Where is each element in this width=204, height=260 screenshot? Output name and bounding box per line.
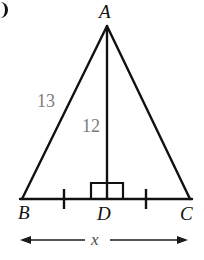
arrowhead-left-icon — [20, 236, 31, 244]
altitude-length-label-12: 12 — [82, 117, 100, 135]
base-variable-label-x: x — [91, 231, 99, 248]
segment-AB — [22, 26, 107, 199]
segment-AC — [107, 26, 190, 199]
vertex-label-D: D — [97, 204, 111, 223]
vertex-label-A: A — [99, 2, 111, 21]
geometry-figure: A B C D 13 12 x — [0, 0, 204, 260]
vertex-label-C: C — [180, 204, 193, 223]
arrowhead-right-icon — [177, 236, 188, 244]
side-length-label-13: 13 — [37, 92, 55, 110]
vertex-label-B: B — [18, 203, 30, 222]
